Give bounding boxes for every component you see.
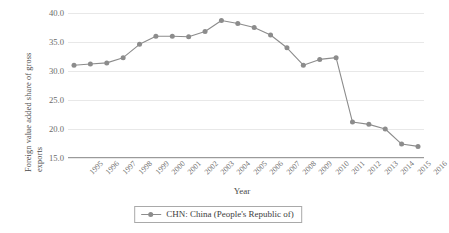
y-tick-label: 30.0	[32, 66, 64, 76]
data-point-marker	[137, 42, 142, 47]
y-tick-label: 40.0	[32, 8, 64, 18]
x-tick-label: 2008	[301, 159, 318, 176]
y-axis-title: Foreign value added share of gross expor…	[24, 4, 45, 172]
y-tick-label: 15.0	[32, 153, 64, 163]
data-point-marker	[203, 29, 208, 34]
series-layer	[68, 13, 424, 158]
data-point-marker	[104, 60, 109, 65]
data-point-marker	[88, 62, 93, 67]
data-point-marker	[383, 127, 388, 132]
y-tick-label: 25.0	[32, 95, 64, 105]
x-tick-label: 2000	[169, 159, 186, 176]
data-point-marker	[170, 34, 175, 39]
data-point-marker	[334, 55, 339, 60]
x-tick-label: 1997	[120, 159, 137, 176]
x-tick-label: 1995	[88, 159, 105, 176]
x-tick-label: 2003	[219, 159, 236, 176]
x-tick-label: 2001	[186, 159, 203, 176]
x-tick-label: 2015	[415, 159, 432, 176]
x-axis-tick-labels: 1995199619971998199920002001200220032004…	[68, 159, 424, 189]
x-tick-label: 2013	[382, 159, 399, 176]
x-tick-label: 1999	[153, 159, 170, 176]
data-point-marker	[252, 25, 257, 30]
data-point-marker	[416, 144, 421, 149]
data-point-marker	[153, 34, 158, 39]
y-axis-title-container: Foreign value added share of gross expor…	[0, 0, 32, 175]
x-tick-label: 2009	[317, 159, 334, 176]
data-point-marker	[235, 21, 240, 26]
data-point-marker	[399, 142, 404, 147]
x-tick-label: 2014	[399, 159, 416, 176]
data-point-marker	[284, 45, 289, 50]
x-axis-title: Year	[0, 186, 436, 196]
x-tick-label: 1996	[104, 159, 121, 176]
x-tick-label: 2016	[432, 159, 449, 176]
data-point-marker	[366, 122, 371, 127]
y-tick-label: 35.0	[32, 37, 64, 47]
chart-legend: CHN: China (People's Republic of)	[134, 206, 302, 223]
plot-area	[68, 13, 424, 158]
x-tick-label: 2007	[284, 159, 301, 176]
x-tick-label: 2010	[333, 159, 350, 176]
x-tick-label: 2012	[366, 159, 383, 176]
data-point-marker	[72, 63, 77, 68]
data-point-marker	[301, 63, 306, 68]
data-point-marker	[121, 55, 126, 60]
y-tick-label: 20.0	[32, 124, 64, 134]
legend-marker-icon	[141, 211, 161, 218]
data-point-marker	[317, 57, 322, 62]
data-point-marker	[219, 18, 224, 23]
x-tick-label: 2006	[268, 159, 285, 176]
legend-item-label: CHN: China (People's Republic of)	[166, 209, 294, 219]
data-point-marker	[350, 120, 355, 125]
x-tick-label: 2005	[251, 159, 268, 176]
series-line	[74, 21, 418, 147]
data-point-marker	[186, 34, 191, 39]
x-tick-label: 2002	[202, 159, 219, 176]
x-tick-label: 2004	[235, 159, 252, 176]
x-tick-label: 1998	[137, 159, 154, 176]
x-tick-label: 2011	[350, 159, 367, 176]
data-point-marker	[268, 33, 273, 38]
